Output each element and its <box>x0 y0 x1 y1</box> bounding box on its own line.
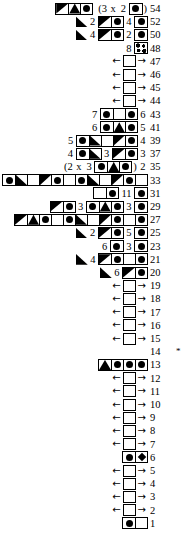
cell-dot[interactable] <box>111 228 123 238</box>
cell-dot[interactable] <box>135 241 147 251</box>
cell-dot[interactable] <box>135 268 147 278</box>
empty-cell[interactable] <box>123 69 136 81</box>
cell-group[interactable] <box>134 29 148 41</box>
cell-dot[interactable] <box>106 188 118 198</box>
cell-peak[interactable] <box>107 162 119 172</box>
cell-tri-dl[interactable] <box>51 202 63 212</box>
empty-cell[interactable] <box>123 412 136 424</box>
cell-group[interactable] <box>2 174 148 186</box>
cell-dot[interactable] <box>80 4 92 14</box>
cell-dot[interactable] <box>111 202 123 212</box>
empty-cell[interactable] <box>123 95 136 107</box>
cell-tri-dl[interactable] <box>56 4 68 14</box>
cell-dot[interactable] <box>135 202 147 212</box>
cell-tri-dl[interactable] <box>113 136 125 146</box>
empty-cell[interactable] <box>123 293 136 305</box>
cell-blank[interactable] <box>99 175 111 185</box>
cell-group[interactable] <box>76 148 102 160</box>
cell-dot[interactable] <box>77 136 89 146</box>
cell-dot[interactable] <box>123 518 135 528</box>
cell-group[interactable] <box>110 240 124 252</box>
cell-group[interactable] <box>134 42 148 54</box>
cell-group[interactable] <box>100 121 138 133</box>
cell-speckle[interactable] <box>135 43 147 53</box>
cell-tri-dl[interactable] <box>99 254 111 264</box>
cell-dot[interactable] <box>75 175 87 185</box>
empty-cell[interactable] <box>123 372 136 384</box>
cell-dot[interactable] <box>111 30 123 40</box>
cell-group[interactable] <box>122 451 148 463</box>
cell-blank[interactable] <box>51 215 63 225</box>
cell-dot[interactable] <box>130 4 142 14</box>
cell-tri-ul[interactable] <box>87 175 99 185</box>
empty-cell[interactable] <box>123 504 136 516</box>
cell-dot[interactable] <box>63 202 75 212</box>
cell-diamond[interactable] <box>135 452 147 462</box>
cell-dot[interactable] <box>95 162 107 172</box>
empty-cell[interactable] <box>123 333 136 345</box>
cell-tri-ul[interactable] <box>75 215 87 225</box>
cell-dot[interactable] <box>135 254 147 264</box>
cell-peak[interactable] <box>99 360 111 370</box>
cell-dot[interactable] <box>111 215 123 225</box>
cell-group[interactable] <box>134 201 148 213</box>
cell-group[interactable] <box>100 108 138 120</box>
cell-group[interactable] <box>86 201 124 213</box>
cell-group[interactable] <box>50 201 76 213</box>
cell-tri-dl[interactable] <box>123 268 135 278</box>
cell-dot[interactable] <box>123 175 135 185</box>
empty-cell[interactable] <box>123 465 136 477</box>
cell-tri-dl[interactable] <box>99 228 111 238</box>
cell-dot[interactable] <box>125 149 137 159</box>
cell-dot[interactable] <box>135 360 147 370</box>
cell-blank[interactable] <box>94 188 106 198</box>
cell-dot[interactable] <box>125 122 137 132</box>
cell-blank[interactable] <box>123 254 135 264</box>
cell-dot[interactable] <box>101 122 113 132</box>
cell-dot[interactable] <box>123 452 135 462</box>
cell-dot[interactable] <box>135 30 147 40</box>
cell-group[interactable] <box>134 16 148 28</box>
cell-tri-dl[interactable] <box>39 175 51 185</box>
cell-dot[interactable] <box>111 17 123 27</box>
cell-blank[interactable] <box>135 175 147 185</box>
empty-cell[interactable] <box>123 385 136 397</box>
cell-tri-dl[interactable] <box>99 215 111 225</box>
cell-dot[interactable] <box>135 17 147 27</box>
cell-dot[interactable] <box>119 162 131 172</box>
cell-blank[interactable] <box>101 136 113 146</box>
cell-group[interactable] <box>122 267 148 279</box>
cell-blank[interactable] <box>87 215 99 225</box>
cell-group[interactable] <box>93 187 119 199</box>
cell-group[interactable] <box>134 187 148 199</box>
cell-tri-ul[interactable] <box>89 149 101 159</box>
cell-tri-dl[interactable] <box>99 17 111 27</box>
cell-dot[interactable] <box>135 188 147 198</box>
cell-dot[interactable] <box>125 136 137 146</box>
cell-group[interactable] <box>55 3 93 15</box>
cell-group[interactable] <box>98 227 124 239</box>
cell-group[interactable] <box>134 240 148 252</box>
empty-cell[interactable] <box>123 319 136 331</box>
cell-dot[interactable] <box>63 215 75 225</box>
cell-dot[interactable] <box>87 202 99 212</box>
cell-dot[interactable] <box>111 254 123 264</box>
empty-cell[interactable] <box>123 491 136 503</box>
cell-dot[interactable] <box>125 109 137 119</box>
cell-group[interactable] <box>129 3 143 15</box>
cell-group[interactable] <box>76 135 138 147</box>
empty-cell[interactable] <box>123 306 136 318</box>
cell-dot[interactable] <box>135 215 147 225</box>
cell-tri-ul[interactable] <box>89 136 101 146</box>
cell-group[interactable] <box>134 227 148 239</box>
empty-cell[interactable] <box>123 82 136 94</box>
empty-cell[interactable] <box>123 280 136 292</box>
cell-peak[interactable] <box>68 4 80 14</box>
cell-peak[interactable] <box>27 215 39 225</box>
cell-dot[interactable] <box>51 175 63 185</box>
cell-dot[interactable] <box>111 241 123 251</box>
cell-group[interactable] <box>14 214 148 226</box>
cell-group[interactable] <box>98 359 148 371</box>
cell-tri-dl[interactable] <box>111 175 123 185</box>
cell-blank[interactable] <box>113 109 125 119</box>
